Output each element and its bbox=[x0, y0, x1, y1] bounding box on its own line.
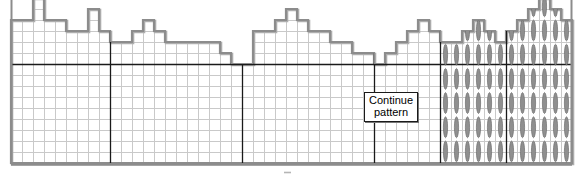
column-ellipse-marker bbox=[509, 68, 513, 89]
column-ellipse-marker bbox=[542, 20, 546, 41]
column-ellipse-marker bbox=[465, 141, 469, 162]
column-ellipse-marker bbox=[531, 20, 535, 41]
column-ellipse-marker bbox=[542, 68, 546, 89]
column-ellipse-marker bbox=[487, 44, 491, 65]
annotation-line-2: pattern bbox=[369, 107, 413, 119]
column-ellipse-marker bbox=[553, 68, 557, 89]
column-ellipse-marker bbox=[498, 117, 502, 138]
column-ellipse-marker bbox=[498, 141, 502, 162]
column-ellipse-marker bbox=[542, 141, 546, 162]
column-ellipse-marker bbox=[509, 44, 513, 65]
column-ellipse-marker bbox=[454, 44, 458, 65]
column-ellipse-marker bbox=[553, 141, 557, 162]
column-ellipse-marker bbox=[465, 93, 469, 114]
column-ellipse-marker bbox=[531, 93, 535, 114]
column-ellipse-marker bbox=[465, 68, 469, 89]
column-ellipse-marker bbox=[454, 117, 458, 138]
column-ellipse-marker bbox=[542, 93, 546, 114]
column-ellipse-marker bbox=[465, 117, 469, 138]
figure-canvas: Continue pattern bbox=[0, 0, 583, 179]
column-ellipse-marker bbox=[454, 68, 458, 89]
column-ellipse-marker bbox=[564, 141, 568, 162]
column-ellipse-marker bbox=[553, 93, 557, 114]
column-ellipse-marker bbox=[443, 44, 447, 65]
step-histogram-chart bbox=[0, 0, 583, 179]
column-ellipse-marker bbox=[443, 93, 447, 114]
column-ellipse-marker bbox=[476, 141, 480, 162]
column-ellipse-marker bbox=[509, 141, 513, 162]
column-ellipse-marker bbox=[520, 141, 524, 162]
column-ellipse-marker bbox=[476, 20, 480, 41]
column-ellipse-marker bbox=[520, 20, 524, 41]
column-ellipse-marker bbox=[553, 117, 557, 138]
column-ellipse-marker bbox=[553, 44, 557, 65]
column-ellipse-marker bbox=[443, 141, 447, 162]
column-ellipse-marker bbox=[476, 68, 480, 89]
column-ellipse-marker bbox=[520, 68, 524, 89]
column-ellipse-marker bbox=[476, 44, 480, 65]
column-ellipse-marker bbox=[564, 117, 568, 138]
column-ellipse-marker bbox=[520, 117, 524, 138]
column-ellipse-marker bbox=[564, 20, 568, 41]
column-ellipse-marker bbox=[542, 117, 546, 138]
column-ellipse-marker bbox=[454, 141, 458, 162]
column-ellipse-marker bbox=[531, 44, 535, 65]
column-ellipse-marker bbox=[564, 68, 568, 89]
annotation-line-1: Continue bbox=[369, 95, 413, 107]
column-ellipse-marker bbox=[509, 93, 513, 114]
column-ellipse-marker bbox=[443, 68, 447, 89]
column-ellipse-marker bbox=[498, 68, 502, 89]
column-ellipse-marker bbox=[443, 117, 447, 138]
column-ellipse-marker bbox=[531, 117, 535, 138]
column-ellipse-marker bbox=[542, 44, 546, 65]
column-ellipse-marker bbox=[476, 117, 480, 138]
column-ellipse-marker bbox=[542, 0, 546, 17]
column-ellipse-marker bbox=[520, 93, 524, 114]
column-ellipse-marker bbox=[564, 93, 568, 114]
column-ellipse-marker bbox=[454, 93, 458, 114]
column-ellipse-marker bbox=[564, 44, 568, 65]
column-ellipse-marker bbox=[531, 68, 535, 89]
column-ellipse-marker bbox=[520, 44, 524, 65]
column-ellipse-marker bbox=[509, 117, 513, 138]
column-ellipse-marker bbox=[531, 141, 535, 162]
column-ellipse-marker bbox=[487, 117, 491, 138]
column-ellipse-marker bbox=[498, 93, 502, 114]
column-ellipse-marker bbox=[487, 93, 491, 114]
continue-pattern-annotation: Continue pattern bbox=[364, 92, 418, 122]
column-ellipse-marker bbox=[487, 68, 491, 89]
column-ellipse-marker bbox=[498, 44, 502, 65]
column-ellipse-marker bbox=[476, 93, 480, 114]
column-ellipse-marker bbox=[465, 44, 469, 65]
column-ellipse-marker bbox=[487, 141, 491, 162]
column-ellipse-marker bbox=[553, 20, 557, 41]
